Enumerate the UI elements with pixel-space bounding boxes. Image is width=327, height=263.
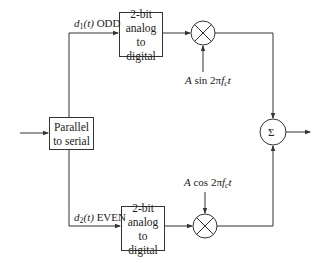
cos-carrier-label: A cos 2πfct [184,176,232,192]
arg: (t) [84,211,94,223]
block-label: digital [128,243,157,257]
arg: (t) [84,17,94,29]
block-label: Parallel [54,120,89,134]
block-label: 2-bit [132,201,154,215]
block-label: to serial [53,134,90,148]
adc-top-block: 2-bit analog to digital [119,12,163,57]
odd-branch-label: d1(t) ODD [74,17,120,33]
block-label: digital [126,49,155,63]
amp: A [185,74,192,86]
even-text: EVEN [97,211,126,223]
sin-carrier-label: A sin 2πfct [185,74,231,90]
block-label: analog to [120,21,162,49]
block-label: 2-bit [130,7,152,21]
amp: A [184,176,191,188]
parallel-to-serial-block: Parallel to serial [49,117,94,150]
adc-bottom-block: 2-bit analog to digital [121,206,165,251]
t: t [228,74,231,86]
fn: cos 2π [193,176,221,188]
odd-text: ODD [97,17,121,29]
t: t [229,176,232,188]
block-label: analog to [122,215,164,243]
odd-branch-line [69,33,118,117]
fn: sin 2π [194,74,221,86]
even-branch-label: d2(t) EVEN [74,211,126,227]
diagram-canvas: Σ Parallel to serial 2-bit analog to dig… [0,0,327,263]
summer-symbol: Σ [268,126,274,138]
